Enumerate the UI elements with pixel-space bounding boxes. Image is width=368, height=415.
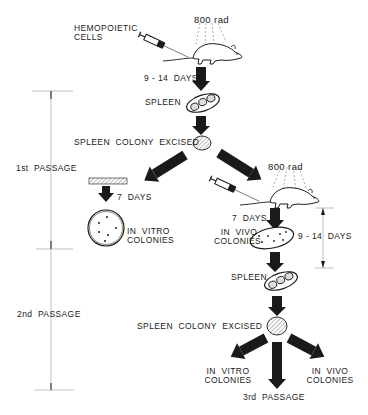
mouse-icon: [163, 44, 242, 64]
arrow-down-icon: [192, 116, 210, 135]
colony-excised-label-2: SPLEEN COLONY EXCISED: [137, 322, 262, 332]
excised-colony-icon: [267, 317, 287, 335]
arrow-down-icon: [266, 252, 284, 272]
in-vitro-label-3b: COLONIES: [200, 376, 256, 386]
passage-bracket-2: [34, 249, 74, 390]
cells-label: CELLS: [74, 33, 103, 43]
rad-label-2: 800 rad: [268, 162, 303, 172]
rad-label-1: 800 rad: [194, 15, 229, 25]
days-9-14-right-label: 9 - 14 DAYS: [298, 232, 352, 242]
petri-dish-icon: [88, 210, 124, 246]
syringe-icon: [138, 32, 189, 60]
in-vitro-label-1b: COLONIES: [127, 236, 174, 246]
arrow-diagonal-left-icon: [140, 147, 190, 188]
diagram-canvas: [0, 0, 368, 415]
spleen-label-1: SPLEEN: [145, 98, 181, 108]
culture-medium-icon: [89, 178, 127, 184]
arrow-diagonal-left-icon: [226, 330, 270, 365]
arrow-diagonal-right-icon: [285, 330, 329, 365]
in-vivo-label-3b: COLONIES: [302, 376, 358, 386]
spleen-icon: [184, 90, 221, 116]
arrow-down-icon: [268, 342, 286, 389]
days-9-14-label: 9 - 14 DAYS: [144, 74, 198, 84]
spleen-icon: [262, 268, 299, 294]
arrow-down-icon: [268, 296, 286, 316]
radiation-rays: [196, 23, 226, 44]
passage-1-label: 1st PASSAGE: [16, 164, 77, 174]
days-7-right-label: 7 DAYS: [232, 214, 267, 224]
spleen-label-2: SPLEEN: [231, 273, 267, 283]
colony-excised-label-1: SPLEEN COLONY EXCISED: [74, 138, 199, 148]
passage-2-label: 2nd PASSAGE: [17, 310, 81, 320]
in-vivo-label-2b: COLONIES: [214, 237, 260, 247]
days-7-left-label: 7 DAYS: [117, 193, 152, 203]
arrow-down-icon: [98, 186, 114, 202]
passage-3-label: 3rd PASSAGE: [243, 393, 305, 403]
